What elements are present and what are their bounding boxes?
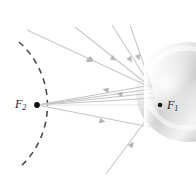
arrowhead-focal-1 [102, 87, 109, 93]
arrowhead-incoming-2 [110, 55, 118, 63]
focal-ray-5 [37, 105, 150, 127]
figure-container: F2 F1 [0, 0, 196, 180]
arrowhead-focal-3 [99, 118, 106, 124]
focus-label-f1-subscript: 1 [174, 104, 178, 113]
focus-dot-f2 [34, 102, 40, 108]
focal-ray-2 [37, 89, 152, 105]
focus-label-f2-subscript: 2 [22, 103, 26, 112]
arrowhead-incoming-5 [128, 140, 136, 148]
focus-label-f1: F1 [167, 99, 178, 111]
ellipsoid-reflector-diagram [0, 0, 196, 180]
focus-label-f2: F2 [15, 98, 26, 110]
dome-edge-fade [144, 36, 160, 148]
focal-ray-group [37, 85, 154, 127]
